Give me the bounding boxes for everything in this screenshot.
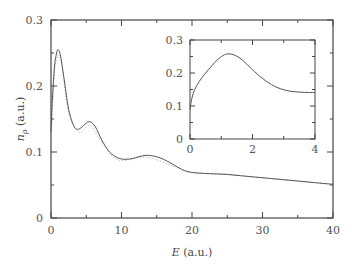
x-tick-label: 20 [185,224,199,237]
chart-canvas: 010203040 00.10.20.3 024 00.10.20.3 E (a… [0,0,352,266]
y-axis-label: nρ (a.u.) [14,97,29,142]
x-tick-label: 0 [187,143,194,156]
x-tick-label: 30 [256,224,270,237]
x-tick-label: 10 [115,224,129,237]
x-axis-label: E (a.u.) [171,246,213,259]
x-tick-label: 4 [312,143,319,156]
y-tick-label: 0.2 [166,67,184,80]
y-tick-label: 0.3 [166,34,184,47]
y-tick-label: 0.3 [26,14,44,27]
y-tick-label: 0.1 [166,100,184,113]
inset-plot-frame [190,40,315,139]
y-tick-label: 0 [36,212,43,225]
x-tick-label: 40 [326,224,340,237]
inset-plot: 024 00.10.20.3 [166,34,319,156]
y-tick-label: 0 [176,133,183,146]
x-tick-label: 2 [249,143,256,156]
y-tick-label: 0.1 [26,146,44,159]
x-tick-label: 0 [48,224,55,237]
y-tick-label: 0.2 [26,80,44,93]
